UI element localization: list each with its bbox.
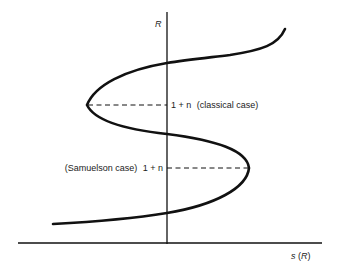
samuelson-level-label: (Samuelson case) 1 + n xyxy=(65,163,163,173)
s-axis-label: s (R) xyxy=(291,251,311,261)
classical-level-label: 1 + n (classical case) xyxy=(171,100,258,110)
savings-curve xyxy=(53,29,285,224)
r-axis-label: R xyxy=(155,19,162,29)
savings-diagram: R s (R) 1 + n (classical case) (Samuelso… xyxy=(0,0,338,269)
